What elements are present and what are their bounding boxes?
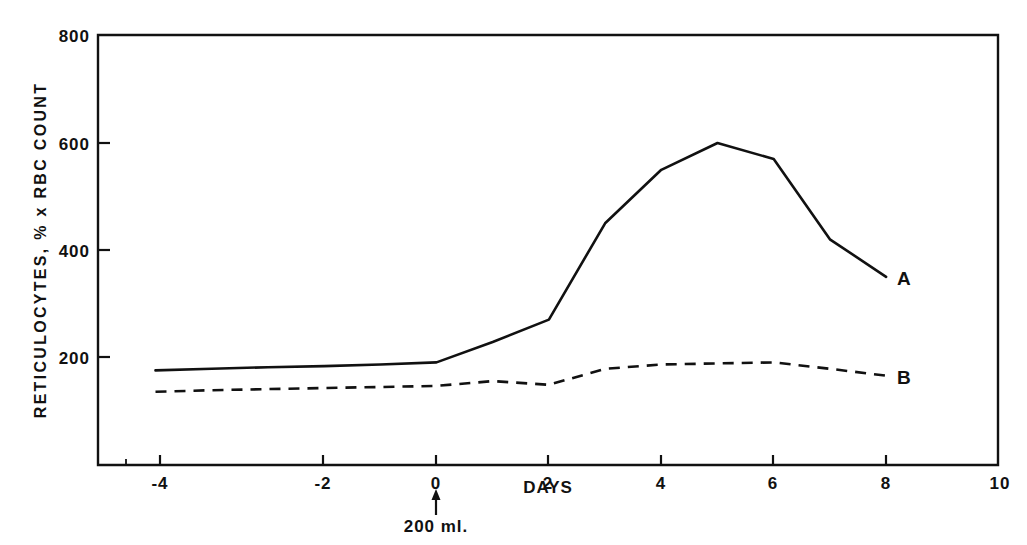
- y-axis-title: RETICULOCYTES, % x RBC COUNT: [32, 82, 49, 418]
- x-tick-label-4: 4: [656, 474, 666, 493]
- x-tick-label-10: 10: [990, 474, 1011, 493]
- series-label-a: A: [897, 268, 912, 289]
- chart-background: [0, 0, 1027, 545]
- transfusion-label: 200 ml.: [404, 517, 469, 536]
- y-tick-label-600: 600: [59, 135, 90, 154]
- x-tick-label-minus4: -4: [151, 474, 168, 493]
- y-tick-label-200: 200: [59, 349, 90, 368]
- x-axis-title: DAYS: [523, 478, 573, 497]
- x-tick-label-6: 6: [768, 474, 778, 493]
- y-tick-label-800: 800: [59, 27, 90, 46]
- chart-canvas: 800 600 400 200 RETICULOCYTES, % x RBC C…: [0, 0, 1027, 545]
- x-tick-label-minus2: -2: [314, 474, 331, 493]
- series-label-b: B: [897, 367, 912, 388]
- reticulocyte-response-chart: 800 600 400 200 RETICULOCYTES, % x RBC C…: [0, 0, 1027, 545]
- y-tick-label-400: 400: [59, 242, 90, 261]
- x-tick-label-8: 8: [881, 474, 891, 493]
